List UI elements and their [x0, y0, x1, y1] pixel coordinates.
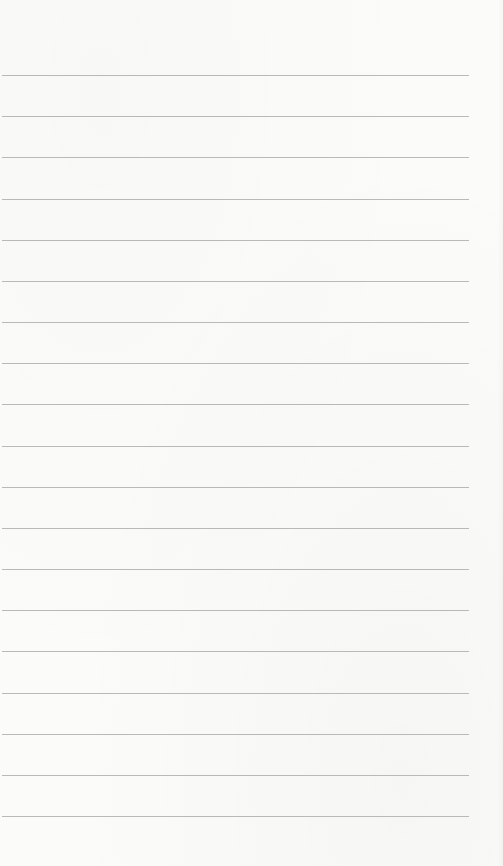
ruled-line — [2, 528, 469, 529]
ruled-line — [2, 487, 469, 488]
ruled-line — [2, 322, 469, 323]
ruled-line — [2, 610, 469, 611]
lined-notepad-page[interactable] — [0, 0, 503, 866]
ruled-line — [2, 651, 469, 652]
ruled-line — [2, 157, 469, 158]
ruled-line — [2, 363, 469, 364]
ruled-line — [2, 446, 469, 447]
ruled-line — [2, 569, 469, 570]
ruled-line — [2, 281, 469, 282]
ruled-line — [2, 404, 469, 405]
ruled-line — [2, 240, 469, 241]
ruled-line — [2, 199, 469, 200]
ruled-line — [2, 75, 469, 76]
ruled-line — [2, 816, 469, 817]
ruled-line — [2, 734, 469, 735]
ruled-line — [2, 116, 469, 117]
ruled-line — [2, 693, 469, 694]
ruled-line — [2, 775, 469, 776]
